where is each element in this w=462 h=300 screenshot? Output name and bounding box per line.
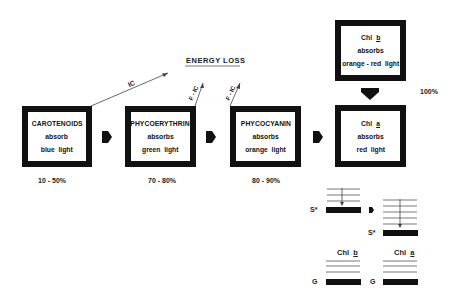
chl-b-ground-prefix: Chl bbox=[337, 248, 349, 257]
fic-arrowhead-icon-1 bbox=[200, 83, 204, 88]
phycocyanin-name: PHYCOCYANIN bbox=[240, 117, 290, 130]
carotenoids-light: blue light bbox=[41, 143, 73, 156]
chl-a-ground-prefix: Chl bbox=[394, 248, 406, 257]
block-arrow-right-icon-1 bbox=[102, 131, 112, 143]
phycocyanin-verb: absorbs bbox=[252, 130, 278, 143]
phycocyanin-box: PHYCOCYANIN absorbs orange light bbox=[230, 106, 301, 167]
chl-a-excited-state-bar bbox=[383, 230, 418, 236]
block-arrow-right-icon-2 bbox=[206, 131, 216, 143]
phycoerythrin-efficiency: 70 - 80% bbox=[148, 177, 176, 184]
chl-a-ground-state-bar bbox=[383, 279, 418, 285]
ic-arrow-line bbox=[91, 73, 168, 106]
chl-b-ground-suffix: b bbox=[353, 248, 358, 257]
phycocyanin-efficiency: 80 - 90% bbox=[252, 177, 280, 184]
phycocyanin-light: orange light bbox=[245, 143, 286, 156]
carotenoids-name: CAROTENOIDS bbox=[32, 117, 83, 130]
chl-a-verb: absorbs bbox=[357, 130, 383, 143]
chl-b-excited-state-bar bbox=[326, 207, 361, 213]
chl-b-light: orange - red light bbox=[342, 57, 399, 70]
chl-a-ground-suffix: a bbox=[410, 248, 414, 257]
phycoerythrin-box: PHYCOERYTHRIN absorbs green light bbox=[125, 106, 196, 167]
chl-a-prefix: Chl bbox=[361, 119, 372, 128]
chl-b-verb: absorbs bbox=[357, 44, 383, 57]
carotenoids-box: CAROTENOIDS absorb blue light bbox=[22, 106, 92, 167]
block-arrow-right-icon-3 bbox=[313, 131, 323, 143]
phycoerythrin-light: green light bbox=[142, 143, 178, 156]
chl-a-name: Chl a bbox=[361, 117, 380, 130]
phycoerythrin-verb: absorbs bbox=[147, 130, 173, 143]
chl-a-suffix: a bbox=[376, 119, 380, 128]
chl-b-ground-state-bar bbox=[326, 279, 361, 285]
relaxation-arrowhead-icon-1 bbox=[340, 202, 344, 206]
block-arrow-down-icon bbox=[361, 88, 379, 100]
carotenoids-verb: absorb bbox=[46, 130, 69, 143]
chl-a-light: red light bbox=[356, 143, 385, 156]
chl-b-excited-label: S* bbox=[310, 206, 317, 213]
chl-b-name: Chl b bbox=[361, 31, 380, 44]
ic-arrowhead-icon bbox=[162, 73, 168, 77]
fic-arrowhead-icon-2 bbox=[236, 83, 240, 89]
chl-b-ground-label: G bbox=[312, 278, 317, 285]
chl-b-suffix: b bbox=[376, 33, 380, 42]
chl-a-efficiency: 100% bbox=[420, 88, 438, 95]
energy-loss-label: ENERGY LOSS bbox=[186, 56, 246, 65]
phycoerythrin-name: PHYCOERYTHRIN bbox=[131, 117, 190, 130]
carotenoids-efficiency: 10 - 50% bbox=[38, 177, 66, 184]
chl-b-prefix: Chl bbox=[361, 33, 372, 42]
relaxation-arrowhead-icon-2 bbox=[398, 224, 402, 228]
chl-a-ground-title: Chl a bbox=[394, 248, 414, 257]
transfer-arrow-icon bbox=[369, 207, 374, 213]
chl-a-excited-label: S* bbox=[368, 229, 375, 236]
chl-a-ground-label: G bbox=[370, 278, 375, 285]
chl-b-box: Chl b absorbs orange - red light bbox=[335, 20, 406, 81]
chl-a-box: Chl a absorbs red light bbox=[335, 105, 406, 167]
chl-b-ground-title: Chl b bbox=[337, 248, 358, 257]
